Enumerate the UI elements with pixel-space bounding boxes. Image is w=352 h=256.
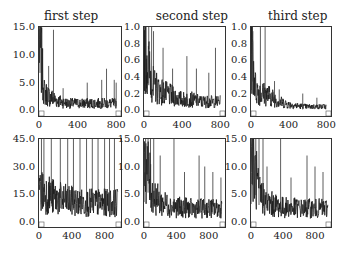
x-tick-label: 400 <box>279 120 298 130</box>
y-tick-label: 0.0 <box>213 105 247 115</box>
y-tick-label: 0.0 <box>1 217 35 227</box>
y-tick-label: 0.0 <box>1 105 35 115</box>
y-tick-label: 10.0 <box>106 162 140 172</box>
x-tick-label: 800 <box>317 120 336 130</box>
y-tick-label: 5.0 <box>213 189 247 199</box>
y-tick-label: 30.0 <box>1 162 35 172</box>
x-tick-label: 800 <box>107 120 126 130</box>
x-tick-label: 0 <box>36 231 42 241</box>
axes-panel <box>143 138 226 228</box>
x-tick-label: 800 <box>305 231 324 241</box>
y-tick-label: 1.0 <box>213 22 247 32</box>
line-series <box>39 139 121 227</box>
line-series <box>144 139 225 227</box>
y-tick-label: 15.0 <box>1 189 35 199</box>
y-tick-label: 15.0 <box>1 22 35 32</box>
y-tick-label: 0.2 <box>213 89 247 99</box>
line-series <box>251 27 331 116</box>
y-tick-label: 10.0 <box>213 162 247 172</box>
y-tick-label: 0.6 <box>213 55 247 65</box>
y-tick-label: 5.0 <box>106 189 140 199</box>
x-tick-label: 800 <box>211 120 230 130</box>
y-tick-label: 0.2 <box>106 89 140 99</box>
y-tick-label: 0.0 <box>106 105 140 115</box>
x-tick-label: 400 <box>62 231 81 241</box>
y-tick-label: 0.4 <box>106 72 140 82</box>
x-tick-label: 0 <box>248 231 254 241</box>
axes-panel <box>250 26 332 117</box>
panel-title: third step <box>268 9 327 23</box>
axes-panel <box>38 138 122 228</box>
y-tick-label: 0.8 <box>213 39 247 49</box>
x-tick-label: 400 <box>167 231 186 241</box>
line-series <box>251 139 331 227</box>
y-tick-label: 10.0 <box>1 50 35 60</box>
panel-title: second step <box>156 9 228 23</box>
y-tick-label: 45.0 <box>1 134 35 144</box>
x-tick-label: 400 <box>68 120 87 130</box>
x-tick-label: 800 <box>199 231 218 241</box>
y-tick-label: 1.0 <box>106 22 140 32</box>
axes-panel <box>250 138 332 228</box>
x-tick-label: 400 <box>273 231 292 241</box>
x-tick-label: 0 <box>248 120 254 130</box>
x-tick-label: 0 <box>141 231 147 241</box>
x-tick-label: 400 <box>173 120 192 130</box>
y-tick-label: 0.4 <box>213 72 247 82</box>
y-tick-label: 0.8 <box>106 39 140 49</box>
y-tick-label: 15.0 <box>213 134 247 144</box>
y-tick-label: 15.0 <box>106 134 140 144</box>
x-tick-label: 0 <box>36 120 42 130</box>
y-tick-label: 5.0 <box>1 78 35 88</box>
y-tick-label: 0.6 <box>106 55 140 65</box>
x-tick-label: 800 <box>95 231 114 241</box>
y-tick-label: 0.0 <box>106 217 140 227</box>
y-tick-label: 0.0 <box>213 217 247 227</box>
panel-title: first step <box>44 9 98 23</box>
x-tick-label: 0 <box>141 120 147 130</box>
